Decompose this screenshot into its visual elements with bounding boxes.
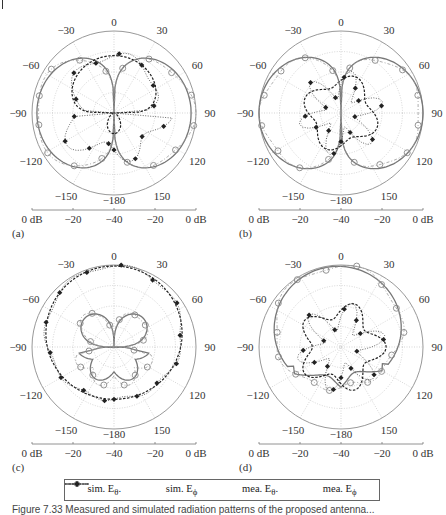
radial-scale-label: 0 dB (185, 447, 206, 459)
angle-label-t180: −180 (330, 428, 353, 440)
angle-label-tm120: −120 (20, 155, 43, 167)
radial-scale-label: 0 dB (185, 213, 206, 225)
angle-label-tm60: −60 (249, 293, 267, 305)
angle-label-t120: 120 (189, 389, 206, 401)
angle-label-t150: 150 (381, 424, 398, 436)
angle-label-tm30: −30 (284, 24, 302, 36)
radial-scale-label: 0 dB (248, 213, 269, 225)
angle-label-tm30: −30 (57, 24, 75, 36)
angle-label-tm60: −60 (22, 293, 40, 305)
radial-scale-label: −20 (64, 213, 82, 225)
radial-scale-label: 0 dB (21, 447, 42, 459)
angle-label-t150: 150 (154, 190, 171, 202)
angle-label-t90: 90 (432, 341, 444, 353)
radial-scale-label: 0 dB (248, 447, 269, 459)
angle-label-tm30: −30 (284, 258, 302, 270)
angle-label-tm150: −150 (55, 424, 78, 436)
legend-item-mea-ephi: mea. Eϕ (323, 483, 357, 497)
angle-label-t60: 60 (419, 59, 431, 71)
angle-label-t120: 120 (416, 389, 433, 401)
legend-item-sim-ephi: sim. Eϕ (166, 483, 197, 497)
polar-plot-a: 0306090120150−180−150−120−90−60−300 dB−2… (9, 16, 216, 240)
legend-item-mea-etheta: mea. Eθ. (242, 483, 278, 497)
angle-label-t0: 0 (338, 250, 344, 262)
angle-label-tm30: −30 (57, 258, 75, 270)
angle-label-tm120: −120 (247, 155, 270, 167)
angle-label-t180: −180 (330, 194, 353, 206)
polar-plot-d: 0306090120150−180−150−120−90−60−300 dB−2… (236, 250, 443, 474)
legend: sim. Eθ. sim. Eϕ mea. Eθ. mea. Eϕ (64, 479, 380, 501)
panel-label-b: (b) (239, 227, 252, 240)
radial-scale-label: −40 (105, 213, 123, 225)
angle-label-t30: 30 (157, 24, 169, 36)
angle-label-t60: 60 (419, 293, 431, 305)
angle-label-tm90: −90 (236, 107, 254, 119)
angle-label-tm120: −120 (247, 389, 270, 401)
angle-label-t60: 60 (192, 59, 204, 71)
radial-scale-label: −20 (373, 447, 391, 459)
radial-scale-label: −20 (146, 447, 164, 459)
angle-label-t90: 90 (432, 107, 444, 119)
angle-label-tm90: −90 (9, 107, 27, 119)
angle-label-t120: 120 (416, 155, 433, 167)
polar-plot-c: 0306090120150−180−150−120−90−60−300 dB−2… (9, 250, 216, 474)
radial-scale-label: −40 (332, 447, 350, 459)
angle-label-t150: 150 (154, 424, 171, 436)
radial-scale-label: −20 (291, 447, 309, 459)
angle-label-t90: 90 (205, 341, 217, 353)
angle-label-tm150: −150 (55, 190, 78, 202)
angle-label-t30: 30 (384, 24, 396, 36)
angle-label-tm60: −60 (249, 59, 267, 71)
panel-label-a: (a) (12, 227, 25, 240)
angle-label-tm90: −90 (236, 341, 254, 353)
radial-scale-label: −40 (332, 213, 350, 225)
angle-label-t180: −180 (103, 428, 126, 440)
radial-scale-label: 0 dB (412, 447, 433, 459)
panel-label-c: (c) (12, 461, 25, 474)
radial-scale-label: 0 dB (412, 213, 433, 225)
angle-label-t150: 150 (381, 190, 398, 202)
angle-label-tm60: −60 (22, 59, 40, 71)
angle-label-t90: 90 (205, 107, 217, 119)
polar-plots: 0306090120150−180−150−120−90−60−300 dB−2… (0, 0, 446, 478)
diamond-marker-line-icon (65, 480, 89, 488)
radial-scale-label: −20 (373, 213, 391, 225)
angle-label-tm150: −150 (282, 190, 305, 202)
angle-label-t180: −180 (103, 194, 126, 206)
angle-label-t60: 60 (192, 293, 204, 305)
radial-scale-label: 0 dB (21, 213, 42, 225)
angle-label-tm150: −150 (282, 424, 305, 436)
radial-scale-label: −20 (291, 213, 309, 225)
angle-label-t30: 30 (384, 258, 396, 270)
angle-label-t0: 0 (111, 16, 117, 28)
polar-plot-b: 0306090120150−180−150−120−90−60−300 dB−2… (236, 16, 443, 240)
radial-scale-label: −20 (146, 213, 164, 225)
panel-label-d: (d) (239, 461, 252, 474)
angle-label-t30: 30 (157, 258, 169, 270)
angle-label-t120: 120 (189, 155, 206, 167)
legend-item-sim-etheta: sim. Eθ. (87, 483, 121, 497)
radial-scale-label: −20 (64, 447, 82, 459)
angle-label-t0: 0 (338, 16, 344, 28)
angle-label-tm120: −120 (20, 389, 43, 401)
angle-label-tm90: −90 (9, 341, 27, 353)
angle-label-t0: 0 (111, 250, 117, 262)
figure-caption: Figure 7.33 Measured and simulated radia… (12, 504, 374, 515)
radial-scale-label: −40 (105, 447, 123, 459)
